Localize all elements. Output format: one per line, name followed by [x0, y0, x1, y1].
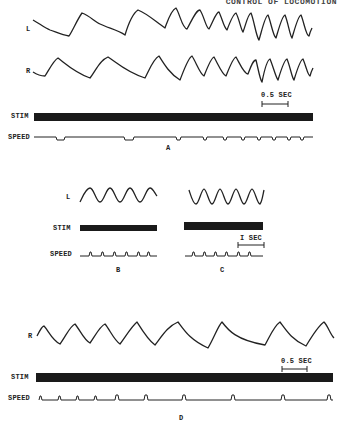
panel-a-left-label: L [26, 25, 30, 33]
panel-b-stim-bar [80, 225, 157, 231]
panel-d-speed-trace [39, 395, 333, 400]
panel-d-stim-label: STIM [11, 373, 29, 381]
panel-c-letter: C [220, 266, 224, 274]
panel-d-right-label: R [28, 332, 32, 340]
panel-a-letter: A [166, 144, 170, 152]
panel-a-right-trace [33, 56, 313, 82]
panel-b-stim-label: STIM [53, 224, 71, 232]
panel-d-stim-bar [36, 373, 333, 382]
panel-a-scale-bar [262, 101, 288, 107]
panel-a-scale-label: 0.5 SEC [261, 91, 292, 99]
panel-c-left-trace [189, 189, 264, 204]
panel-d-right-trace [37, 322, 334, 348]
panel-a-stim-label: STIM [11, 112, 29, 120]
panel-d-speed-label: SPEED [8, 394, 30, 402]
panel-a-right-label: R [26, 67, 30, 75]
panel-b-left-label: L [66, 193, 70, 201]
panel-b-left-trace [80, 188, 157, 202]
panel-a-stim-bar [34, 113, 313, 121]
panel-b-speed-label: SPEED [50, 250, 72, 258]
panel-c-scale-label: I SEC [240, 234, 262, 242]
panel-b-letter: B [116, 266, 120, 274]
panel-b-speed-trace [80, 252, 157, 256]
panel-a-speed-trace [34, 137, 313, 140]
panel-a-left-trace [33, 8, 312, 40]
panel-d-scale-bar [282, 366, 307, 372]
panel-d-scale-label: 0.5 SEC [281, 357, 312, 365]
panel-c-scale-bar [238, 242, 264, 248]
panel-c-stim-bar [184, 222, 263, 230]
panel-d-letter: D [179, 414, 183, 422]
panel-c-speed-trace [185, 252, 263, 256]
panel-a-speed-label: SPEED [8, 133, 30, 141]
